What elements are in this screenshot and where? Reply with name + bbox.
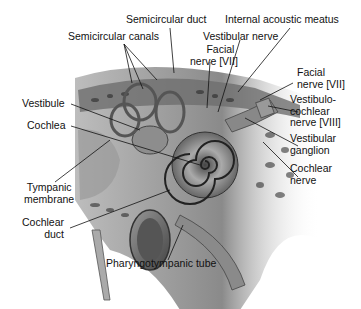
label-cochlea: Cochlea: [27, 120, 66, 132]
label-cochlear-duct-line1: Cochlear: [22, 217, 64, 229]
label-vestibular-ganglion: Vestibular ganglion: [290, 133, 336, 156]
label-vestibule: Vestibule: [22, 98, 65, 110]
label-facial-nerve-right: Facial nerve [VII]: [297, 67, 345, 90]
inner-ear-diagram: Semicircular duct Internal acoustic meat…: [0, 0, 361, 309]
label-cochlear-nerve-line1: Cochlear: [290, 163, 332, 175]
label-vestibulocochlear-line1: Vestibulo-: [290, 94, 341, 106]
label-facial-nerve-top: Facial nerve [VII]: [190, 44, 238, 67]
label-vestibular-ganglion-line2: ganglion: [290, 145, 336, 157]
label-cochlear-nerve-line2: nerve: [290, 175, 332, 187]
label-facial-nerve-right-line1: Facial: [297, 67, 345, 79]
label-semicircular-duct: Semicircular duct: [126, 14, 207, 26]
label-tympanic-membrane-line1: Tympanic: [24, 182, 74, 194]
label-cochlear-duct: Cochlear duct: [22, 217, 64, 240]
label-facial-nerve-right-line2: nerve [VII]: [297, 79, 345, 91]
label-facial-nerve-top-line2: nerve [VII]: [190, 56, 238, 68]
label-cochlear-nerve: Cochlear nerve: [290, 163, 332, 186]
label-tympanic-membrane-line2: membrane: [24, 194, 74, 206]
label-internal-acoustic-meatus: Internal acoustic meatus: [225, 14, 339, 26]
label-vestibulocochlear-nerve: Vestibulo- cochlear nerve [VIII]: [290, 94, 341, 129]
label-vestibulocochlear-line3: nerve [VIII]: [290, 117, 341, 129]
label-pharyngotympanic-tube: Pharyngotympanic tube: [106, 258, 216, 270]
label-tympanic-membrane: Tympanic membrane: [24, 182, 74, 205]
label-vestibular-ganglion-line1: Vestibular: [290, 133, 336, 145]
label-semicircular-canals: Semicircular canals: [68, 31, 159, 43]
label-facial-nerve-top-line1: Facial: [190, 44, 238, 56]
label-cochlear-duct-line2: duct: [22, 229, 64, 241]
label-vestibular-nerve: Vestibular nerve: [203, 31, 278, 43]
